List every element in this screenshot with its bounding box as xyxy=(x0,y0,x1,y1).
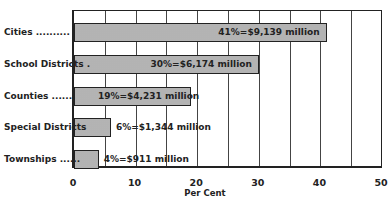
gridline xyxy=(351,11,352,166)
category-label: Special Districts xyxy=(4,121,86,133)
plot-area: 41%=$9,139 million30%=$6,174 million19%=… xyxy=(72,10,382,168)
bar-value-label: 41%=$9,139 million xyxy=(218,23,319,42)
x-axis-label: Per Cent xyxy=(184,188,225,198)
bar-value-label: 4%=$911 million xyxy=(104,150,189,169)
category-label: Counties ....... xyxy=(4,90,76,102)
x-tick-label: 10 xyxy=(128,177,141,188)
x-tick-label: 20 xyxy=(190,177,203,188)
bar-value-label: 30%=$6,174 million xyxy=(151,55,252,74)
x-tick-label: 0 xyxy=(70,177,77,188)
bar-value-label: 19%=$4,231 million xyxy=(98,87,199,106)
x-tick-label: 30 xyxy=(251,177,264,188)
category-label: School Districts . xyxy=(4,58,90,70)
x-tick-label: 40 xyxy=(313,177,326,188)
x-tick-label: 50 xyxy=(374,177,387,188)
category-label: Cities .......... xyxy=(4,26,70,38)
bar-value-label: 6%=$1,344 million xyxy=(116,118,211,137)
category-label: Townships ...... xyxy=(4,153,80,165)
